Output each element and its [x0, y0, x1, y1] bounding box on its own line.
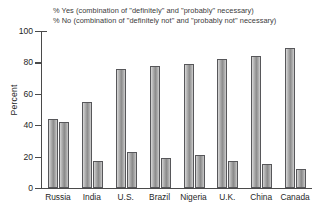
bar-yes: [251, 56, 261, 188]
bar-group: [46, 31, 74, 188]
bar-yes: [285, 48, 295, 188]
y-axis-tick-label: 40: [7, 120, 33, 130]
bar-no: [59, 122, 69, 188]
y-axis-tick-label: 20: [7, 151, 33, 161]
bar-group: [148, 31, 176, 188]
legend-entry-no: % No (combination of "definitely not" an…: [53, 16, 315, 26]
y-axis-tick-label: 60: [7, 88, 33, 98]
bar-group: [80, 31, 108, 188]
bar-group: [114, 31, 142, 188]
y-axis-tick-label: 0: [7, 183, 33, 193]
x-axis-category-label: Canada: [273, 192, 317, 202]
bar-no: [262, 164, 272, 188]
bar-no: [161, 158, 171, 188]
bar-group: [182, 31, 210, 188]
legend-entry-yes: % Yes (combination of "definitely" and "…: [53, 6, 315, 16]
y-axis-tick: [35, 188, 41, 189]
bar-group: [249, 31, 277, 188]
y-axis-tick-label: 100: [7, 26, 33, 36]
bar-yes: [82, 102, 92, 188]
bar-chart: % Yes (combination of "definitely" and "…: [0, 0, 317, 220]
bar-group: [283, 31, 311, 188]
bar-yes: [150, 66, 160, 188]
y-axis-tick-label: 80: [7, 57, 33, 67]
chart-legend: % Yes (combination of "definitely" and "…: [53, 6, 315, 26]
bar-no: [93, 161, 103, 188]
x-axis-category-labels: RussiaIndiaU.S.BrazilNigeriaU.K.ChinaCan…: [41, 192, 312, 208]
bar-no: [195, 155, 205, 188]
bar-no: [296, 169, 306, 188]
bar-no: [127, 152, 137, 188]
bar-group: [215, 31, 243, 188]
x-axis-line: [41, 188, 312, 189]
bars-layer: [41, 31, 312, 188]
bar-yes: [184, 64, 194, 188]
bar-yes: [116, 69, 126, 188]
bar-no: [228, 161, 238, 188]
bar-yes: [217, 59, 227, 188]
bar-yes: [48, 119, 58, 188]
